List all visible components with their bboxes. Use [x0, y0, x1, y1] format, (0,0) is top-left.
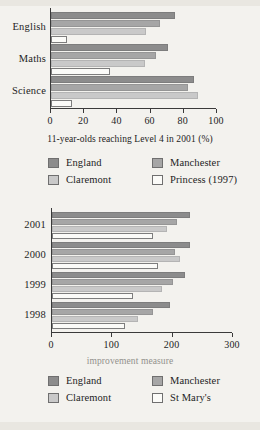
category-label: English	[0, 21, 46, 32]
x-axis-tick-label: 300	[217, 339, 247, 350]
legend-label: England	[66, 157, 102, 168]
legend-item: St Mary's	[152, 392, 256, 403]
scanned-page: 020406080100EnglishMathsScience 11-year-…	[0, 0, 260, 430]
bar	[52, 233, 153, 239]
legend-label: England	[66, 375, 102, 386]
page-edge-top	[0, 0, 260, 6]
legend-item: Claremont	[48, 174, 152, 185]
legend-swatch-icon	[48, 175, 59, 185]
bar	[52, 242, 190, 248]
category-label: Science	[0, 85, 46, 96]
legend-row: EnglandManchester	[0, 154, 260, 171]
legend-label: St Mary's	[170, 392, 211, 403]
legend-swatch-icon	[48, 376, 59, 386]
bar	[52, 226, 167, 232]
x-axis-tick	[50, 109, 51, 113]
chart-attainment-2001-plot: 020406080100EnglishMathsScience	[0, 8, 260, 120]
x-axis-line	[50, 108, 216, 109]
legend-swatch-icon	[152, 376, 163, 386]
bar	[51, 44, 168, 51]
x-axis-tick-label: 20	[68, 115, 98, 126]
legend-swatch-icon	[152, 158, 163, 168]
bar	[51, 68, 110, 75]
bar	[51, 60, 145, 67]
bar	[51, 52, 156, 59]
legend-item: Manchester	[152, 375, 256, 386]
legend-label: Manchester	[170, 157, 220, 168]
legend-label: Claremont	[66, 174, 111, 185]
category-label: 2001	[0, 219, 46, 230]
bar	[52, 212, 190, 218]
x-axis-tick	[83, 109, 84, 113]
x-axis-tick-label: 0	[36, 339, 66, 350]
x-axis-line	[51, 332, 232, 333]
bar	[52, 256, 180, 262]
x-axis-tick-label: 80	[168, 115, 198, 126]
legend-swatch-icon	[48, 393, 59, 403]
legend-item: England	[48, 375, 152, 386]
chart-improvement-measure: 01002003002001200019991998 improvement m…	[0, 208, 260, 358]
x-axis-tick-label: 40	[101, 115, 131, 126]
legend-item: Claremont	[48, 392, 152, 403]
x-axis-tick	[216, 109, 217, 113]
bar	[51, 20, 160, 27]
x-axis-tick	[183, 109, 184, 113]
legend-item: England	[48, 157, 152, 168]
bar	[52, 293, 133, 299]
bar	[51, 36, 67, 43]
bar	[52, 309, 153, 315]
bar	[51, 12, 175, 19]
bar	[52, 316, 138, 322]
legend-swatch-icon	[48, 158, 59, 168]
bar	[52, 286, 162, 292]
legend-label: Manchester	[170, 375, 220, 386]
legend-label: Claremont	[66, 392, 111, 403]
legend-item: Manchester	[152, 157, 256, 168]
legend-swatch-icon	[152, 175, 163, 185]
x-axis-tick	[172, 333, 173, 337]
category-label: 2000	[0, 249, 46, 260]
category-label: 1998	[0, 309, 46, 320]
legend-item: Princess (1997)	[152, 174, 256, 185]
legend-label: Princess (1997)	[170, 174, 237, 185]
x-axis-tick-label: 100	[96, 339, 126, 350]
legend-chart-improvement-measure: EnglandManchesterClaremontSt Mary's	[0, 372, 260, 406]
bar	[51, 100, 72, 107]
bar	[51, 28, 146, 35]
bar	[52, 302, 170, 308]
x-axis-tick-label: 200	[157, 339, 187, 350]
legend-chart-attainment-2001: EnglandManchesterClaremontPrincess (1997…	[0, 154, 260, 188]
bar	[51, 76, 194, 83]
bar	[52, 323, 125, 329]
x-axis-tick-label: 60	[135, 115, 165, 126]
bar	[52, 263, 158, 269]
x-axis-tick	[232, 333, 233, 337]
chart-improvement-measure-xlabel: improvement measure	[0, 356, 260, 366]
bar	[52, 279, 173, 285]
chart-improvement-measure-plot: 01002003002001200019991998	[0, 208, 260, 336]
bar	[52, 219, 177, 225]
bar	[52, 272, 185, 278]
x-axis-tick-label: 100	[201, 115, 231, 126]
legend-swatch-icon	[152, 393, 163, 403]
x-axis-tick	[51, 333, 52, 337]
category-label: 1999	[0, 279, 46, 290]
category-label: Maths	[0, 53, 46, 64]
chart-attainment-2001-xlabel: 11-year-olds reaching Level 4 in 2001 (%…	[0, 134, 260, 144]
legend-row: ClaremontSt Mary's	[0, 389, 260, 406]
bar	[51, 92, 198, 99]
legend-row: EnglandManchester	[0, 372, 260, 389]
legend-row: ClaremontPrincess (1997)	[0, 171, 260, 188]
chart-attainment-2001: 020406080100EnglishMathsScience 11-year-…	[0, 8, 260, 148]
x-axis-tick	[111, 333, 112, 337]
page-edge-bottom	[0, 422, 260, 430]
x-axis-tick-label: 0	[35, 115, 65, 126]
x-axis-tick	[116, 109, 117, 113]
x-axis-tick	[150, 109, 151, 113]
bar	[51, 84, 188, 91]
bar	[52, 249, 175, 255]
